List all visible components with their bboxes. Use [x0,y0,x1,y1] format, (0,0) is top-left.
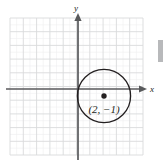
center-point-marker [101,93,106,98]
x-axis-label: x [149,84,154,94]
graph-canvas: x y (2, −1) [0,0,165,166]
coordinate-plane-figure: x y (2, −1) [0,0,165,166]
center-point-label: (2, −1) [88,103,120,116]
page-edge-artifact [158,40,163,62]
y-axis-label: y [73,3,78,13]
y-axis-arrow-icon [74,13,81,21]
